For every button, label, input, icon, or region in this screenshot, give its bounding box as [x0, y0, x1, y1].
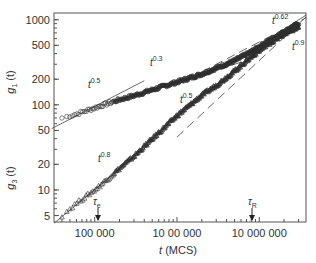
x-tick-label: 10 000 000: [232, 227, 287, 239]
y-axis-title-g3: g3 (t): [4, 166, 18, 189]
annotation-g1-t062: t0.62: [272, 13, 289, 26]
tau-r-arrow-icon: [249, 208, 255, 221]
x-axis-title: t (MCS): [159, 244, 197, 256]
y-tick-label: 100: [32, 99, 50, 111]
y-tick-label: 20: [38, 158, 50, 170]
data-series: [60, 22, 301, 219]
x-tick-label: 10 00 000: [153, 227, 202, 239]
x-tick-label: 100 000: [75, 227, 115, 239]
y-axis-title-g1: g1 (t): [4, 70, 18, 93]
y-tick-label: 10: [38, 184, 50, 196]
log-log-plot: 10005002001005020105100 00010 00 00010 0…: [0, 0, 316, 263]
series-g3: [60, 24, 301, 219]
annotation-g1-t03: t0.3: [150, 55, 163, 68]
annotation-g3-t08: t0.8: [98, 151, 111, 164]
tau-e-label: τe: [93, 196, 101, 209]
y-tick-label: 5: [44, 210, 50, 222]
y-tick-label: 500: [32, 39, 50, 51]
y-tick-label: 1000: [26, 14, 50, 26]
tau-e-arrow-icon: [95, 208, 101, 221]
y-tick-label: 50: [38, 124, 50, 136]
y-tick-label: 200: [32, 73, 50, 85]
annotation-g1-t05: t0.5: [88, 77, 101, 90]
annotation-g3-t09: t0.9: [292, 39, 305, 52]
tau-r-label: τR: [248, 196, 257, 209]
fit-line: [52, 81, 145, 129]
